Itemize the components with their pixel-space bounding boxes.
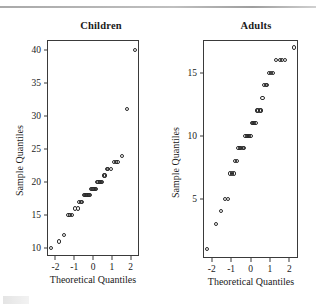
x-axis-label-children: Theoretical Quantiles	[50, 274, 136, 285]
data-point	[271, 71, 275, 75]
y-tick-mark	[200, 135, 204, 136]
y-tick-label: 25	[32, 144, 42, 154]
x-tick-label: 2	[128, 262, 133, 272]
data-point	[232, 171, 236, 175]
data-point	[248, 134, 252, 138]
data-point	[235, 159, 239, 163]
y-axis-label-children: Sample Quantiles	[14, 125, 25, 196]
x-tick-label: 0	[248, 264, 253, 274]
x-tick-label: -1	[227, 264, 235, 274]
x-tick-mark	[74, 256, 75, 260]
y-tick-label: 30	[32, 111, 42, 121]
y-tick-mark	[44, 248, 48, 249]
x-tick-mark	[269, 258, 270, 262]
data-point	[214, 222, 218, 226]
data-point	[259, 108, 263, 112]
x-tick-mark	[55, 256, 56, 260]
x-tick-mark	[289, 258, 290, 262]
data-point	[94, 187, 98, 191]
y-tick-mark	[44, 148, 48, 149]
x-tick-label: 0	[91, 262, 96, 272]
x-tick-label: -2	[51, 262, 59, 272]
panel-children: Children Sample Quantiles Theoretical Qu…	[0, 0, 158, 307]
x-tick-mark	[111, 256, 112, 260]
data-point	[133, 48, 137, 52]
y-tick-mark	[200, 198, 204, 199]
x-axis-label-adults: Theoretical Quantiles	[208, 276, 294, 287]
y-tick-mark	[44, 49, 48, 50]
x-tick-mark	[93, 256, 94, 260]
x-tick-mark	[231, 258, 232, 262]
y-tick-label: 15	[32, 210, 42, 220]
y-tick-mark	[44, 115, 48, 116]
x-tick-label: 2	[287, 264, 292, 274]
plot-area-children	[47, 40, 139, 256]
data-point	[260, 96, 264, 100]
x-tick-label: 1	[268, 264, 273, 274]
y-tick-mark	[44, 82, 48, 83]
data-point	[253, 121, 257, 125]
y-tick-label: 10	[32, 243, 42, 253]
x-tick-label: 1	[109, 262, 114, 272]
data-point	[76, 206, 80, 210]
y-tick-mark	[200, 72, 204, 73]
y-tick-label: 15	[188, 68, 198, 78]
x-tick-mark	[130, 256, 131, 260]
panel-adults: Adults Sample Quantiles Theoretical Quan…	[158, 0, 316, 307]
data-point	[292, 45, 296, 49]
panel-title-adults: Adults	[158, 20, 316, 31]
x-tick-label: -1	[70, 262, 78, 272]
y-tick-label: 20	[32, 177, 42, 187]
x-tick-label: -2	[208, 264, 216, 274]
x-tick-mark	[250, 258, 251, 262]
data-point	[103, 173, 107, 177]
y-tick-mark	[44, 215, 48, 216]
y-tick-label: 35	[32, 78, 42, 88]
x-tick-mark	[211, 258, 212, 262]
data-point	[70, 213, 74, 217]
y-tick-label: 5	[192, 194, 197, 204]
y-tick-mark	[44, 182, 48, 183]
panel-title-children: Children	[0, 20, 158, 31]
y-tick-label: 10	[188, 131, 198, 141]
y-tick-label: 40	[32, 45, 42, 55]
y-axis-label-adults: Sample Quantiles	[170, 127, 181, 198]
data-point	[120, 154, 124, 158]
data-point	[109, 167, 113, 171]
data-point	[115, 160, 119, 164]
